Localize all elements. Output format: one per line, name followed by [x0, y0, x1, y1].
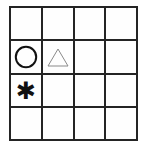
- asterisk-icon: ✱: [11, 75, 41, 106]
- grid-cell-r4-c1[interactable]: [11, 108, 43, 141]
- shape-grid-canvas: ✱: [0, 0, 147, 151]
- grid-cell-r3-c1[interactable]: ✱: [11, 75, 43, 108]
- grid-cell-r2-c1[interactable]: [11, 41, 43, 74]
- grid-cell-r1-c4[interactable]: [106, 8, 138, 41]
- circle-icon: [11, 41, 41, 72]
- grid-cell-r4-c3[interactable]: [75, 108, 107, 141]
- grid-cell-r1-c3[interactable]: [75, 8, 107, 41]
- grid-cell-r3-c2[interactable]: [43, 75, 75, 108]
- grid-cell-r3-c4[interactable]: [106, 75, 138, 108]
- grid-cell-r1-c1[interactable]: [11, 8, 43, 41]
- grid-cell-r3-c3[interactable]: [75, 75, 107, 108]
- grid-cell-r2-c3[interactable]: [75, 41, 107, 74]
- triangle-icon: [43, 41, 73, 72]
- shape-grid: ✱: [9, 6, 138, 141]
- asterisk-glyph: ✱: [16, 79, 36, 103]
- grid-cell-r2-c4[interactable]: [106, 41, 138, 74]
- grid-cell-r4-c2[interactable]: [43, 108, 75, 141]
- grid-cell-r2-c2[interactable]: [43, 41, 75, 74]
- grid-cell-r4-c4[interactable]: [106, 108, 138, 141]
- grid-cell-r1-c2[interactable]: [43, 8, 75, 41]
